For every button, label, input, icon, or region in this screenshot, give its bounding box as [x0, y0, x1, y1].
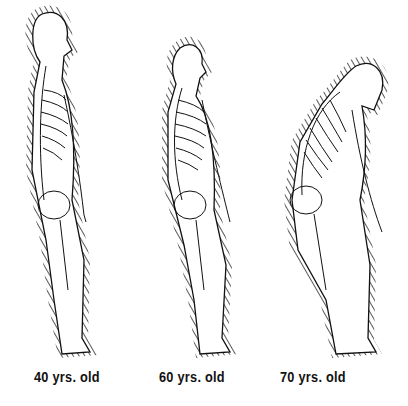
skeleton-illustration-stooped: [270, 0, 408, 365]
skeleton-illustration-slight-curve: [140, 0, 280, 365]
figure-60-years: 60 yrs. old: [140, 0, 280, 365]
figure-70-years: 70 yrs. old: [270, 0, 408, 365]
age-label-40: 40 yrs. old: [34, 368, 100, 385]
skeleton-illustration-upright: [0, 0, 140, 365]
age-label-60: 60 yrs. old: [159, 368, 225, 385]
figure-40-years: 40 yrs. old: [0, 0, 140, 365]
age-label-70: 70 yrs. old: [280, 368, 346, 385]
